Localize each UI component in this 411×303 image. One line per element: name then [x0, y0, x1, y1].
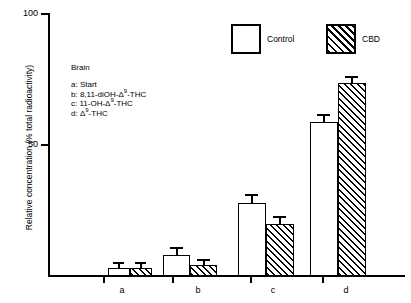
x-tick-c: [250, 277, 252, 283]
annotation-line-c-prefix: c: 11-OH-Δ: [71, 99, 110, 108]
bar-a-cbd: [130, 268, 152, 276]
annotation-line-c-suffix: -THC: [114, 99, 133, 108]
bar-chart: 100 50 Relative concentration (% total r…: [0, 0, 411, 303]
annotation-line-b-prefix: b: 8,11-diOH-Δ: [71, 90, 124, 99]
x-tick-b: [172, 277, 174, 283]
errorbar-d-cbd-cap: [345, 76, 358, 78]
x-axis-label-a: a: [110, 285, 134, 295]
legend-label-control: Control: [267, 24, 294, 54]
bar-c-cbd: [266, 224, 294, 276]
annotation-title: Brain: [71, 63, 146, 72]
bar-b-cbd: [190, 265, 217, 276]
annotation-block: Brain a: Start b: 8,11-diOH-Δ9-THC c: 11…: [71, 63, 146, 118]
legend-swatch-control: [231, 24, 261, 54]
y-tick-100: [41, 13, 50, 15]
x-tick-d: [322, 277, 324, 283]
bar-c-control: [238, 203, 266, 276]
annotation-line-d-prefix: d: Δ: [71, 109, 85, 118]
errorbar-a-cbd-cap: [135, 262, 146, 264]
x-axis-label-b: b: [186, 285, 210, 295]
errorbar-a-control-cap: [113, 262, 124, 264]
bar-d-cbd: [338, 83, 366, 276]
legend-label-cbd: CBD: [362, 24, 380, 54]
errorbar-c-control-cap: [245, 194, 258, 196]
bar-b-control: [163, 255, 190, 276]
errorbar-c-cbd-cap: [273, 216, 286, 218]
annotation-line-b: b: 8,11-diOH-Δ9-THC: [71, 90, 146, 99]
annotation-line-b-suffix: -THC: [127, 90, 146, 99]
bar-a-control: [108, 268, 130, 276]
errorbar-b-cbd-cap: [197, 259, 210, 261]
x-tick-a: [103, 277, 105, 283]
errorbar-d-control-cap: [317, 114, 330, 116]
y-axis-title: Relative concentration (% total radioact…: [25, 48, 34, 248]
legend-swatch-cbd: [326, 24, 356, 54]
annotation-line-a-text: a: Start: [71, 80, 97, 89]
y-tick-50: [41, 144, 50, 146]
annotation-line-d-suffix: -THC: [89, 109, 108, 118]
x-axis-label-d: d: [334, 285, 358, 295]
annotation-line-a: a: Start: [71, 80, 146, 89]
annotation-line-c: c: 11-OH-Δ9-THC: [71, 99, 146, 108]
bar-d-control: [310, 122, 338, 276]
errorbar-b-control-cap: [170, 247, 183, 249]
annotation-line-d: d: Δ9-THC: [71, 109, 146, 118]
x-axis-label-c: c: [261, 285, 285, 295]
y-tick-label-100: 100: [8, 9, 38, 18]
